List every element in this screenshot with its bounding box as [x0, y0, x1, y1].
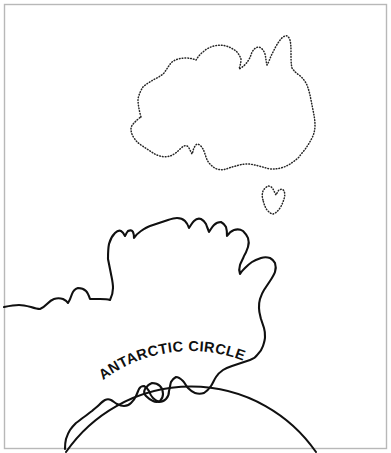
antarctic-circle-label-path [72, 351, 310, 413]
map-canvas: ANTARCTIC CIRCLE [0, 0, 391, 453]
image-border [5, 5, 387, 449]
map-figure: ANTARCTIC CIRCLE [0, 0, 391, 453]
antarctica-outline [4, 218, 276, 449]
tasmania-outline [262, 186, 285, 214]
antarctic-circle-label-textpath: ANTARCTIC CIRCLE [96, 338, 248, 383]
australia-outline [131, 36, 315, 170]
antarctic-circle-label: ANTARCTIC CIRCLE [96, 338, 248, 383]
antarctic-circle-arc [66, 386, 316, 452]
